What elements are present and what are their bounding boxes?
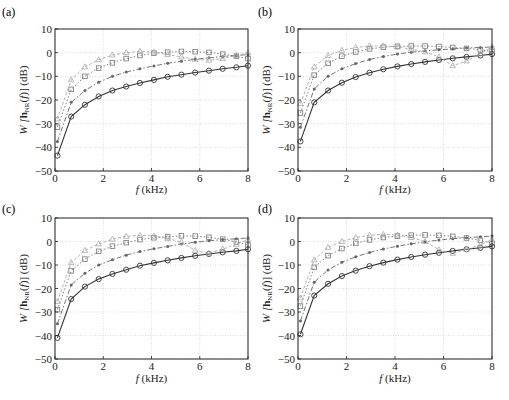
star-marker <box>396 245 399 248</box>
star-marker <box>194 241 197 244</box>
star-marker <box>166 62 169 65</box>
y-tick-label: −40 <box>278 141 296 153</box>
y-tick-label: 0 <box>290 236 296 248</box>
y-tick-label: 10 <box>41 212 53 224</box>
x-tick-label: 4 <box>149 360 155 372</box>
star-marker <box>70 283 73 286</box>
y-tick-label: −30 <box>278 118 296 130</box>
y-axis-label: W [hNR(f)] (dB) <box>260 254 274 323</box>
y-tick-label: −30 <box>35 118 53 130</box>
y-tick-label: 0 <box>290 47 296 59</box>
x-tick-label: 8 <box>489 172 495 184</box>
y-tick-label: −40 <box>35 141 53 153</box>
y-tick-label: 0 <box>47 47 53 59</box>
figure: (a)02468100−10−20−30−40−50f (kHz)W [hNR(… <box>0 0 509 400</box>
x-tick-label: 6 <box>441 360 447 372</box>
triangle-marker <box>137 232 143 237</box>
panel-b: (b)02468100−10−20−30−40−50f (kHz)W [hNR(… <box>258 5 495 196</box>
star-marker <box>340 67 343 70</box>
x-tick-label: 6 <box>197 360 203 372</box>
panel-d: (d)02468100−10−20−30−40−50f (kHz)W [hNR(… <box>258 202 495 385</box>
star-marker <box>111 258 114 261</box>
y-tick-label: −50 <box>35 353 53 365</box>
y-tick-label: −10 <box>278 70 296 82</box>
x-axis-label: f (kHz) <box>136 372 168 385</box>
triangle-marker <box>137 48 143 53</box>
star-marker <box>70 101 73 104</box>
star-marker <box>111 75 114 78</box>
panel-a: (a)02468100−10−20−30−40−50f (kHz)W [hNR(… <box>2 5 251 196</box>
y-axis-label: W [hNR(f)] (dB) <box>17 254 31 323</box>
y-tick-label: −30 <box>35 306 53 318</box>
circle-marker <box>55 153 60 158</box>
square-marker <box>55 125 60 130</box>
triangle-marker <box>339 47 345 52</box>
star-marker <box>97 81 100 84</box>
panel-label: (a) <box>2 5 15 19</box>
x-tick-label: 2 <box>344 172 350 184</box>
star-marker <box>138 250 141 253</box>
star-marker <box>56 140 59 143</box>
y-tick-label: −20 <box>35 94 53 106</box>
star-marker <box>152 64 155 67</box>
x-tick-label: 8 <box>489 360 495 372</box>
star-marker <box>125 254 128 257</box>
star-marker <box>180 60 183 63</box>
y-tick-label: −30 <box>278 306 296 318</box>
star-marker <box>125 71 128 74</box>
series-triangle-dotted <box>55 48 251 121</box>
triangle-marker <box>179 54 185 59</box>
square-marker <box>298 111 303 116</box>
star-marker <box>396 53 399 56</box>
series-triangle-dotted <box>55 232 251 303</box>
x-tick-label: 6 <box>441 172 447 184</box>
star-marker <box>299 126 302 129</box>
x-axis-label: f (kHz) <box>379 372 411 385</box>
x-tick-label: 2 <box>344 360 350 372</box>
x-tick-label: 8 <box>245 172 251 184</box>
circle-marker <box>298 139 303 144</box>
x-tick-label: 6 <box>197 172 203 184</box>
star-marker <box>83 89 86 92</box>
star-marker <box>83 272 86 275</box>
y-tick-label: −50 <box>35 165 53 177</box>
x-tick-label: 0 <box>52 172 58 184</box>
star-marker <box>327 75 330 78</box>
square-marker <box>298 304 303 309</box>
y-tick-label: 10 <box>284 23 296 35</box>
star-marker <box>152 247 155 250</box>
grid <box>298 29 492 171</box>
x-tick-label: 4 <box>392 360 398 372</box>
x-tick-label: 0 <box>295 172 301 184</box>
y-tick-label: −50 <box>278 165 296 177</box>
star-marker <box>313 281 316 284</box>
triangle-marker <box>436 247 442 252</box>
star-marker <box>56 322 59 325</box>
y-tick-label: 0 <box>47 236 53 248</box>
y-tick-label: −10 <box>278 259 296 271</box>
star-marker <box>327 268 330 271</box>
star-marker <box>368 58 371 61</box>
x-tick-label: 2 <box>101 360 107 372</box>
panel-c: (c)02468100−10−20−30−40−50f (kHz)W [hNR(… <box>2 202 251 385</box>
square-marker <box>96 66 101 71</box>
star-marker <box>97 264 100 267</box>
star-marker <box>340 261 343 264</box>
y-axis-label: W [hNR(f)] (dB) <box>260 65 274 134</box>
star-marker <box>437 239 440 242</box>
x-axis-label: f (kHz) <box>379 183 411 196</box>
panel-label: (b) <box>258 5 272 19</box>
x-tick-label: 8 <box>245 360 251 372</box>
star-marker <box>382 55 385 58</box>
series-circle-solid <box>55 63 251 158</box>
grid <box>298 218 492 359</box>
y-tick-label: 10 <box>41 23 53 35</box>
star-marker <box>138 67 141 70</box>
x-axis-label: f (kHz) <box>136 183 168 196</box>
series-triangle-dotted <box>298 43 495 106</box>
star-marker <box>465 46 468 49</box>
star-marker <box>166 245 169 248</box>
series-circle-solid <box>55 247 251 341</box>
circle-marker <box>298 332 303 337</box>
triangle-marker <box>381 231 387 236</box>
